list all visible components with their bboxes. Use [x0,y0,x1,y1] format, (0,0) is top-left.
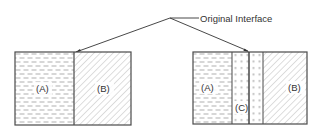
callout-label: Original Interface [200,13,272,24]
right-region-c-label: (C) [235,102,248,113]
left-region-a-label: (A) [36,83,49,94]
original-interface-callout: Original Interface [75,13,272,53]
right-region-b-label: (B) [288,82,301,93]
leader-line-left [76,18,170,52]
left-region-b-label: (B) [97,83,110,94]
right-region-a-label: (A) [201,82,214,93]
right-panel-after: (A) (C) (B) [193,52,307,124]
interface-diagram: Original Interface (A) (B) (A) (C) (B) [0,0,323,133]
left-panel-before: (A) (B) [15,52,131,125]
